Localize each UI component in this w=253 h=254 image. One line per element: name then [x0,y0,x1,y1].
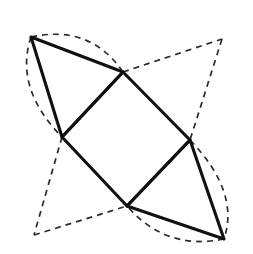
geometric-figure [0,0,253,254]
